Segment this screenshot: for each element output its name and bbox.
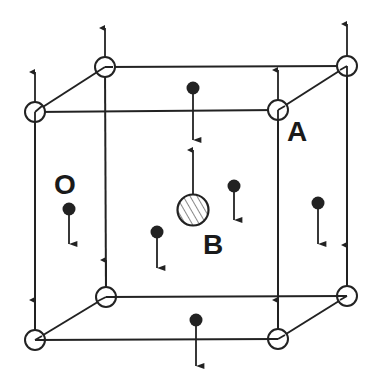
edge-top-right-depth <box>278 66 347 110</box>
atom-o-right-face <box>312 197 325 210</box>
atom-o-top-face <box>187 82 200 95</box>
atom-o-back-face <box>228 180 241 193</box>
atom-o-bottom-face <box>190 314 203 327</box>
edge-front-bottom <box>35 339 278 340</box>
edge-bottom-left-depth <box>35 297 106 340</box>
edge-top-left-depth <box>35 67 105 112</box>
atom-o-front-face <box>151 226 164 239</box>
label-a: A <box>287 116 307 147</box>
label-o: O <box>54 169 76 200</box>
edge-back-top <box>105 66 347 67</box>
atom-b-hatched <box>178 195 209 226</box>
corner-spin-arrows <box>35 24 347 331</box>
atom-o-left-face <box>63 203 76 216</box>
edge-back-bottom <box>106 296 347 297</box>
edge-bottom-right-depth <box>278 296 347 339</box>
body-center-atom <box>178 150 209 226</box>
crystal-structure-diagram: A O B <box>0 0 380 380</box>
edge-front-top <box>35 110 278 112</box>
label-b: B <box>203 229 223 260</box>
